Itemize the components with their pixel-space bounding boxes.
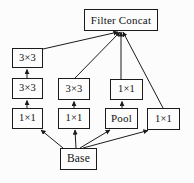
edge-base-to-branch1-conv1x1 [41,130,63,148]
node-label-branch1-conv1x1: 1×1 [19,113,36,124]
edge-base-to-branch2-conv1x1 [75,130,76,148]
node-label-filter-concat: Filter Concat [91,15,151,26]
node-branch1-conv3x3-top: 3×3 [12,48,43,68]
node-label-branch3-pool: Pool [111,113,132,124]
node-label-branch1-conv3x3-mid: 3×3 [19,83,36,94]
edge-branch2-conv3x3-to-filter-concat [75,32,120,78]
node-branch3-pool: Pool [105,108,138,129]
node-filter-concat: Filter Concat [84,9,158,31]
edge-branch1-conv3x3-top-to-filter-concat [43,32,118,49]
node-label-branch3-conv1x1: 1×1 [118,84,135,95]
edge-base-to-branch3-pool [80,130,110,148]
node-branch1-conv1x1: 1×1 [12,108,43,129]
node-label-branch4-conv1x1: 1×1 [155,114,172,125]
node-branch4-conv1x1: 1×1 [147,108,180,130]
node-label-branch1-conv3x3-top: 3×3 [19,53,36,64]
node-branch2-conv3x3: 3×3 [58,78,90,100]
node-branch1-conv3x3-mid: 3×3 [12,78,43,99]
node-branch2-conv1x1: 1×1 [58,108,90,129]
node-base: Base [60,148,97,170]
node-label-base: Base [67,153,90,165]
node-label-branch2-conv3x3: 3×3 [65,84,82,95]
edge-base-to-branch4-conv1x1 [83,131,148,149]
node-branch3-conv1x1: 1×1 [110,79,143,100]
inception-module-diagram: Filter Concat3×33×31×13×31×11×1Pool1×1Ba… [0,0,194,183]
node-label-branch2-conv1x1: 1×1 [65,113,82,124]
